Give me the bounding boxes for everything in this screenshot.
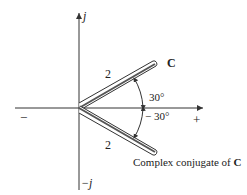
conjugate-label-c: C	[234, 156, 242, 168]
phasor-c-label: C	[167, 57, 176, 69]
conjugate-label: Complex conjugate of C	[133, 157, 241, 168]
phasor-c	[79, 61, 157, 110]
imag-pos-label: j	[83, 10, 86, 22]
angle-arc-negative	[134, 109, 143, 138]
conjugate-angle: − 30°	[145, 111, 169, 122]
angle-arc-positive	[134, 78, 143, 107]
real-neg-label: −	[20, 111, 27, 124]
real-pos-label: +	[193, 113, 200, 126]
phasor-c-angle: 30°	[149, 92, 164, 103]
phasor-c-magnitude: 2	[105, 68, 111, 80]
imag-neg-label: −j	[81, 177, 92, 189]
conjugate-label-prefix: Complex conjugate of	[133, 156, 234, 168]
conjugate-magnitude: 2	[105, 139, 111, 151]
